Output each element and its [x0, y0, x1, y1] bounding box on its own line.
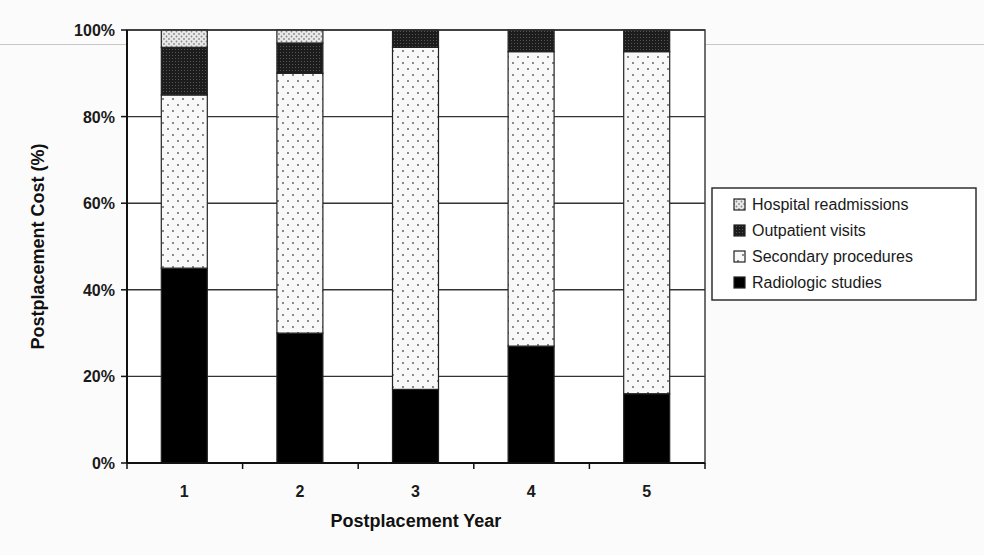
x-axis-title: Postplacement Year	[331, 511, 502, 531]
bar-segment-hospital-readmissions	[277, 30, 323, 43]
bar-segment-radiologic-studies	[624, 394, 670, 463]
legend-label: Hospital readmissions	[752, 196, 909, 213]
bar-stack-year-1	[161, 30, 207, 463]
bar-segment-secondary-procedures	[624, 52, 670, 394]
bar-segment-secondary-procedures	[161, 95, 207, 268]
legend-label: Outpatient visits	[752, 222, 866, 239]
y-tick-label: 80%	[83, 109, 115, 126]
legend-swatch-icon	[734, 199, 745, 210]
y-axis-title: Postplacement Cost (%)	[28, 143, 48, 349]
legend-label: Secondary procedures	[752, 248, 913, 265]
bar-stack-year-3	[393, 30, 439, 463]
x-tick-label: 4	[527, 483, 536, 500]
bar-segment-secondary-procedures	[393, 47, 439, 389]
legend-label: Radiologic studies	[752, 274, 882, 291]
x-tick-label: 5	[642, 483, 651, 500]
x-tick-label: 3	[411, 483, 420, 500]
legend-item: Radiologic studies	[734, 274, 882, 291]
y-tick-label: 60%	[83, 195, 115, 212]
legend-swatch-icon	[734, 251, 745, 262]
bar-stack-year-2	[277, 30, 323, 463]
legend-item: Hospital readmissions	[734, 196, 909, 213]
y-tick-label: 100%	[74, 22, 115, 39]
bar-segment-hospital-readmissions	[161, 30, 207, 47]
bar-segment-outpatient-visits	[277, 43, 323, 73]
bar-segment-radiologic-studies	[161, 268, 207, 463]
x-tick-label: 1	[180, 483, 189, 500]
bar-segment-secondary-procedures	[508, 52, 554, 346]
bar-segment-outpatient-visits	[161, 47, 207, 95]
legend-item: Outpatient visits	[734, 222, 866, 239]
legend-swatch-icon	[734, 225, 745, 236]
bar-segment-radiologic-studies	[393, 389, 439, 463]
y-tick-label: 20%	[83, 368, 115, 385]
bar-stack-year-5	[624, 30, 670, 463]
bar-segment-outpatient-visits	[508, 30, 554, 52]
plot-area	[127, 30, 705, 463]
stacked-bar-chart: 123450%20%40%60%80%100%Postplacement Yea…	[0, 0, 984, 555]
bar-segment-secondary-procedures	[277, 73, 323, 333]
bar-segment-outpatient-visits	[624, 30, 670, 52]
bar-segment-outpatient-visits	[393, 30, 439, 47]
y-tick-label: 40%	[83, 282, 115, 299]
bar-stack-year-4	[508, 30, 554, 463]
bar-segment-radiologic-studies	[277, 333, 323, 463]
y-tick-label: 0%	[92, 455, 115, 472]
x-tick-label: 2	[295, 483, 304, 500]
legend-item: Secondary procedures	[734, 248, 913, 265]
bar-segment-radiologic-studies	[508, 346, 554, 463]
legend: Hospital readmissionsOutpatient visitsSe…	[712, 188, 976, 300]
legend-swatch-icon	[734, 277, 745, 288]
